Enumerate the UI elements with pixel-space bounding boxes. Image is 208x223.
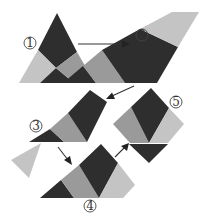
shape-step-2: [63, 12, 199, 83]
label-step-4: 4: [84, 199, 96, 213]
label-step-1: 1: [24, 36, 36, 50]
label-step-3: 3: [30, 119, 42, 133]
arrow-1-to-2: [78, 41, 130, 48]
label-step-5: 5: [170, 95, 182, 109]
arrow-2-to-3: [106, 86, 134, 99]
step-4-number: 4: [86, 199, 94, 213]
step-2-number: 2: [138, 28, 146, 42]
step-3-number: 3: [32, 119, 40, 133]
arrow-4-to-5: [115, 143, 129, 157]
piece-light-detached: [11, 143, 41, 178]
piece-dark-bottom: [129, 144, 168, 163]
step-5-number: 5: [172, 95, 180, 109]
dissection-diagram: 1 2 3 4 5: [0, 0, 208, 223]
arrow-3-to-4: [58, 147, 72, 165]
step-1-number: 1: [26, 36, 34, 50]
shape-step-4: [40, 144, 135, 198]
